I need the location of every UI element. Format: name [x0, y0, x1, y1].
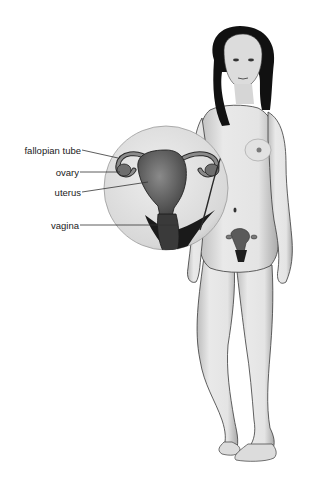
- nipple-right: [257, 148, 262, 153]
- label-uterus: uterus: [55, 187, 81, 198]
- navel: [234, 208, 237, 213]
- neck: [234, 84, 254, 104]
- label-fallopian-tube: fallopian tube: [24, 145, 81, 156]
- face: [224, 34, 262, 88]
- leader-fallopian-tube: [82, 150, 118, 158]
- label-ovary: ovary: [56, 167, 79, 178]
- figure-illustration: [0, 0, 329, 484]
- eye-left: [233, 59, 239, 62]
- eye-right: [248, 59, 254, 62]
- left-leg: [197, 250, 238, 452]
- anatomy-diagram: fallopian tube ovary uterus vagina: [0, 0, 329, 484]
- label-vagina: vagina: [51, 220, 79, 231]
- right-foot: [235, 444, 276, 461]
- right-leg: [236, 262, 274, 450]
- ovary-left: [117, 164, 131, 176]
